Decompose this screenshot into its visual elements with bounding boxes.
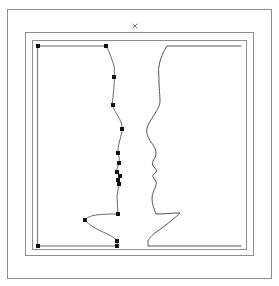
handle-chin[interactable]: [116, 212, 120, 216]
drawing-surface[interactable]: [0, 0, 279, 286]
middle-frame[interactable]: [26, 33, 254, 256]
handle-lip-a[interactable]: [115, 170, 119, 174]
handle-jaw-left[interactable]: [83, 218, 87, 222]
handle-bottom-right[interactable]: [115, 244, 119, 248]
handle-bottom-left-corner[interactable]: [36, 244, 40, 248]
close-x-mark[interactable]: [133, 24, 138, 29]
handle-lip-b[interactable]: [118, 174, 122, 178]
inner-frame[interactable]: [33, 41, 247, 250]
handle-nose-bridge[interactable]: [120, 127, 124, 131]
handle-forehead-top[interactable]: [104, 44, 108, 48]
handle-neck[interactable]: [115, 239, 119, 243]
outer-frame[interactable]: [8, 10, 272, 279]
handle-brow[interactable]: [111, 103, 115, 107]
handle-top-left-corner[interactable]: [36, 44, 40, 48]
handle-chin-upper[interactable]: [117, 182, 121, 186]
handle-lip-c[interactable]: [116, 178, 120, 182]
handle-forehead[interactable]: [112, 75, 116, 79]
handle-nose-tip[interactable]: [116, 151, 120, 155]
handle-upper-lip[interactable]: [117, 161, 121, 165]
left-face-profile[interactable]: [38, 46, 122, 246]
control-point-handles[interactable]: [36, 44, 124, 248]
right-face-profile[interactable]: [147, 46, 241, 246]
frame-group: [8, 10, 272, 279]
shape-editor-canvas: [0, 0, 279, 286]
